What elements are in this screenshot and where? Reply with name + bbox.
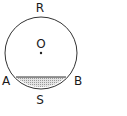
label-b: B bbox=[74, 74, 82, 88]
label-r: R bbox=[36, 1, 44, 15]
shaded-segment bbox=[16, 77, 66, 87]
label-a: A bbox=[2, 74, 11, 88]
center-dot bbox=[40, 52, 42, 54]
label-o: O bbox=[36, 37, 45, 51]
circle-diagram: R O A B S bbox=[0, 0, 127, 116]
label-s: S bbox=[36, 93, 44, 107]
